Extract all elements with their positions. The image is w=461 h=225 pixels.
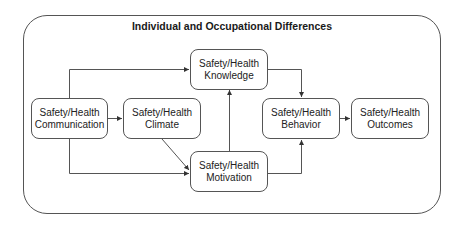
edge-communication-to-knowledge — [70, 70, 190, 99]
node-motivation-line2: Motivation — [206, 172, 252, 184]
edge-knowledge-to-behavior — [268, 70, 302, 98]
node-communication-line2: Communication — [35, 119, 104, 131]
node-climate-line1: Safety/Health — [132, 107, 192, 119]
node-outcomes-line1: Safety/Health — [360, 107, 420, 119]
node-climate: Safety/Health Climate — [123, 98, 201, 139]
node-outcomes: Safety/Health Outcomes — [351, 98, 429, 139]
node-behavior-line2: Behavior — [281, 119, 320, 131]
node-knowledge-line2: Knowledge — [204, 70, 253, 82]
diagram-canvas: Individual and Occupational Differences — [0, 0, 461, 225]
node-outcomes-line2: Outcomes — [367, 119, 413, 131]
node-knowledge-line1: Safety/Health — [199, 58, 259, 70]
node-communication-line1: Safety/Health — [39, 107, 99, 119]
node-behavior-line1: Safety/Health — [271, 107, 331, 119]
node-motivation: Safety/Health Motivation — [190, 151, 268, 192]
edge-motivation-to-behavior — [268, 140, 302, 174]
node-climate-line2: Climate — [145, 119, 179, 131]
node-knowledge: Safety/Health Knowledge — [190, 49, 268, 90]
node-communication: Safety/Health Communication — [31, 98, 108, 139]
edge-climate-to-motivation — [162, 139, 189, 170]
edge-communication-to-motivation — [70, 139, 190, 174]
node-motivation-line1: Safety/Health — [199, 160, 259, 172]
node-behavior: Safety/Health Behavior — [262, 98, 340, 139]
